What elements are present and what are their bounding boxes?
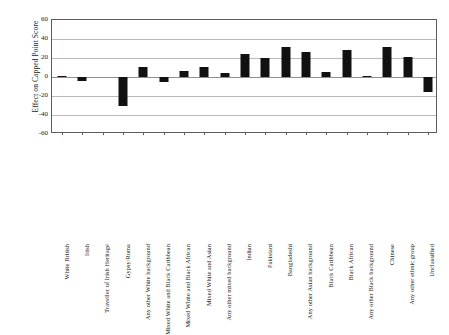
bar-slot [316, 20, 336, 132]
x-category-label: Mixed White and Black African [185, 244, 191, 328]
bar [240, 54, 249, 77]
bar-slot [397, 20, 417, 132]
bar [139, 67, 148, 77]
x-axis-category-labels: White BritishIrishTraveller of Irish Her… [51, 136, 437, 248]
x-category-label: Black Caribbean [328, 244, 334, 288]
x-tick-mark [164, 132, 165, 135]
x-tick-mark [408, 132, 409, 135]
bar-slot [113, 20, 133, 132]
bar-slot [215, 20, 235, 132]
bar [119, 77, 128, 106]
bar-slot [357, 20, 377, 132]
bar-slot [255, 20, 275, 132]
y-tick-label: 0 [26, 73, 48, 80]
bar-series [52, 20, 436, 132]
x-category-label: Any other mixed background [226, 244, 232, 321]
bar-slot [154, 20, 174, 132]
bar-slot [235, 20, 255, 132]
bar [261, 58, 270, 77]
x-tick-mark [204, 132, 205, 135]
x-tick-mark [82, 132, 83, 135]
bar [58, 76, 67, 77]
bar [200, 67, 209, 77]
bar [281, 47, 290, 77]
bar-slot [174, 20, 194, 132]
bar [78, 77, 87, 81]
bar [159, 77, 168, 82]
x-tick-mark [62, 132, 63, 135]
bar [362, 76, 371, 77]
bar [220, 73, 229, 77]
bar [342, 50, 351, 77]
bar-slot [296, 20, 316, 132]
x-tick-mark [306, 132, 307, 135]
x-tick-mark [245, 132, 246, 135]
x-category-label: Any other Asian background [307, 244, 313, 319]
x-tick-mark [184, 132, 185, 135]
x-category-label: Any other ethnic group [409, 244, 415, 305]
x-category-label: Mixed White and Asian [206, 244, 212, 306]
bar-slot [133, 20, 153, 132]
x-tick-mark [326, 132, 327, 135]
x-category-label: Mixed White and Black Caribbean [165, 244, 171, 335]
bar [301, 52, 310, 77]
x-tick-mark [428, 132, 429, 135]
plot-area [51, 19, 437, 133]
bar-slot [194, 20, 214, 132]
bar [423, 77, 432, 92]
x-tick-mark [347, 132, 348, 135]
x-category-label: Black African [348, 244, 354, 280]
x-tick-mark [123, 132, 124, 135]
x-category-label: Any other White background [145, 244, 151, 320]
x-category-label: Gypsy/Roma [125, 244, 131, 278]
bar-slot [93, 20, 113, 132]
y-tick-label: 60 [26, 16, 48, 23]
x-category-label: Bangladeshi [287, 244, 293, 276]
x-tick-mark [143, 132, 144, 135]
x-category-label: Indian [246, 244, 252, 261]
y-tick-label: 40 [26, 35, 48, 42]
y-tick-label: 20 [26, 54, 48, 61]
y-axis-tick-labels: 6040200-20-40-60 [22, 0, 48, 250]
bar [322, 72, 331, 77]
y-tick-label: -40 [26, 111, 48, 118]
x-category-label: Any other Black background [368, 244, 374, 320]
x-category-label: Irish [84, 244, 90, 256]
x-category-label: Unclassified [429, 244, 435, 277]
bar [383, 47, 392, 77]
x-category-label: Chinese [389, 244, 395, 265]
bar-slot [72, 20, 92, 132]
bar [403, 57, 412, 77]
x-tick-mark [367, 132, 368, 135]
x-category-label: Pakistani [267, 244, 273, 268]
bar-slot [52, 20, 72, 132]
x-tick-mark [225, 132, 226, 135]
bar-slot [275, 20, 295, 132]
x-tick-mark [286, 132, 287, 135]
bar [180, 71, 189, 77]
bar-slot [418, 20, 438, 132]
y-tick-label: -20 [26, 92, 48, 99]
bar-slot [377, 20, 397, 132]
x-tick-mark [265, 132, 266, 135]
bar-slot [336, 20, 356, 132]
x-tick-mark [387, 132, 388, 135]
x-tick-mark [103, 132, 104, 135]
x-category-label: Traveller of Irish Heritage [104, 244, 110, 313]
x-category-label: White British [64, 244, 70, 279]
y-tick-label: -60 [26, 130, 48, 137]
